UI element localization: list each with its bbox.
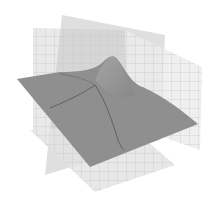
surface-plot-svg bbox=[0, 0, 217, 202]
surface-plot bbox=[0, 0, 217, 202]
